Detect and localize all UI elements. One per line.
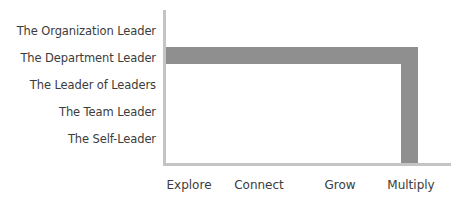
y-label-self-leader: The Self-Leader: [68, 132, 156, 146]
x-label-grow: Grow: [324, 178, 355, 192]
y-label-organization-leader: The Organization Leader: [17, 24, 156, 38]
x-label-explore: Explore: [166, 178, 211, 192]
x-axis-line: [163, 163, 451, 166]
x-label-multiply: Multiply: [387, 178, 434, 192]
department-leader-horizontal-bar: [166, 47, 418, 64]
leadership-path-chart: The Organization Leader The Department L…: [0, 0, 476, 205]
y-label-leader-of-leaders: The Leader of Leaders: [30, 78, 156, 92]
y-label-department-leader: The Department Leader: [20, 51, 156, 65]
y-axis-line: [163, 10, 166, 166]
y-label-team-leader: The Team Leader: [59, 105, 156, 119]
multiply-vertical-bar: [401, 47, 418, 163]
x-label-connect: Connect: [234, 178, 284, 192]
